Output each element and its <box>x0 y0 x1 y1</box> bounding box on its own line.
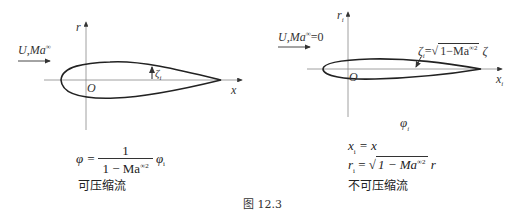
potential-label-right: φi <box>400 115 409 133</box>
freestream-label-right: U,Ma∞=0 <box>278 30 323 45</box>
freestream-label-left: U,Ma∞ <box>18 43 51 58</box>
left-axes <box>44 22 242 130</box>
equation-compressible: φ = 1 1 − Ma∞2 φi <box>76 143 165 176</box>
r-axis-label-right: ri <box>337 8 344 24</box>
r-axis-label-left: r <box>76 20 81 35</box>
right-axes <box>307 12 502 117</box>
origin-label-right: O <box>349 70 358 85</box>
thickness-label-left: ζi <box>155 67 161 82</box>
caption-incompressible: 不可压缩流 <box>348 176 408 193</box>
x-axis-label-right: xi <box>496 72 503 88</box>
equation-ri: ri = √1 − Ma∞2 r <box>348 157 436 175</box>
equation-xi: xi = x <box>348 138 377 156</box>
origin-label-left: O <box>87 81 96 96</box>
figure-caption: 图 12.3 <box>243 195 282 211</box>
thickness-annotation-right: ζi=√1−Ma∞2 ζ <box>418 44 487 60</box>
x-axis-label-left: x <box>231 83 236 98</box>
caption-compressible: 可压缩流 <box>78 176 126 193</box>
